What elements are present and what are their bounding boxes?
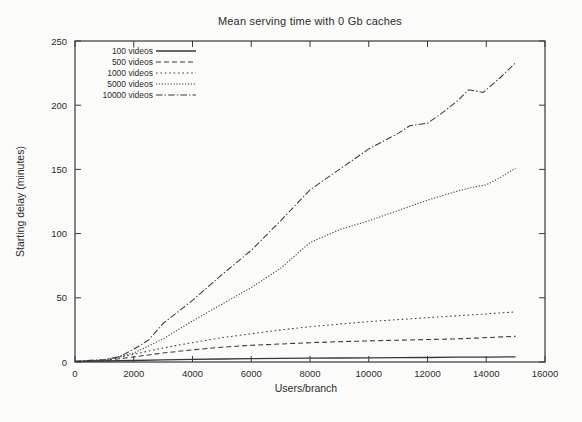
x-tick-label: 4000 [168, 368, 218, 379]
legend-label-5000-videos: 5000 videos [40, 79, 153, 89]
x-tick-label: 16000 [520, 368, 570, 379]
y-tick-label: 100 [29, 228, 67, 239]
figure: Starting delay (minutes) Mean serving ti… [0, 0, 582, 422]
y-tick-label: 250 [29, 36, 67, 47]
x-tick-label: 8000 [285, 368, 335, 379]
x-tick-label: 12000 [403, 368, 453, 379]
x-tick-label: 14000 [461, 368, 511, 379]
y-tick-label: 0 [29, 357, 67, 368]
x-axis-title: Users/branch [75, 382, 537, 394]
chart-title: Mean serving time with 0 Gb caches [75, 15, 545, 27]
y-tick-label: 150 [29, 164, 67, 175]
series-line-5000-videos [75, 168, 516, 361]
x-tick-label: 6000 [226, 368, 276, 379]
series-line-10000-videos [75, 63, 516, 362]
x-tick-label: 0 [50, 368, 100, 379]
y-tick-label: 50 [29, 292, 67, 303]
legend-label-500-videos: 500 videos [40, 57, 153, 67]
x-tick-label: 10000 [344, 368, 394, 379]
legend-label-100-videos: 100 videos [40, 46, 153, 56]
legend-label-1000-videos: 1000 videos [40, 68, 153, 78]
series-line-100-videos [75, 357, 516, 362]
x-tick-label: 2000 [109, 368, 159, 379]
legend-label-10000-videos: 10000 videos [40, 90, 153, 100]
y-tick-label: 200 [29, 100, 67, 111]
series-line-1000-videos [75, 312, 516, 362]
y-axis-title: Starting delay (minutes) [14, 146, 26, 257]
